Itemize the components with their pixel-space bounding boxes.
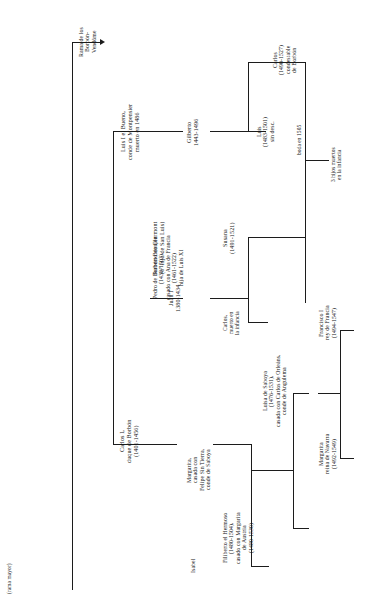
connector-margarita-luisa (293, 393, 309, 394)
genealogy-chart-page: (rama mayor) Rama de los Borbón- Vendôme (0, 0, 369, 609)
connector-pedro-susana (248, 237, 268, 238)
node-pedro-beaujeu: Pedro de Borbón-Beaujeu (1438-1503), cas… (152, 206, 192, 330)
connector-carlosI-margarita (251, 470, 269, 471)
connector-union-3hijos (305, 160, 329, 161)
bracket-pedro-children (248, 237, 249, 322)
connector-luisI-gilberto (146, 131, 183, 132)
trunk-vertical-main (72, 42, 73, 590)
node-filiberto-hermoso: Filiberto el Hermoso (1480-1504), casado… (222, 482, 262, 594)
node-tres-hijos-muertos: 3 hijos muertos en la infancia (330, 128, 347, 202)
node-boda-1505: boda en 1505 (296, 112, 306, 168)
node-luisa-saboya: Luisa de Saboya (1476-1531), casada con … (262, 318, 294, 464)
union-susana-to-boda (305, 237, 306, 238)
bracket-gilberto-children (248, 62, 249, 131)
node-susana: Susana (1491-1521) (222, 204, 239, 272)
node-isabel: Isabel (190, 548, 200, 584)
node-gilberto: Gilberto 1443-1496 (186, 98, 203, 166)
node-luis-1483: Luis (1483-1501) sin desc. (256, 98, 280, 166)
connector-gilberto-bracket (210, 131, 248, 132)
vendome-arrow-icon (100, 39, 105, 45)
connector-luisa-francisco (340, 330, 354, 331)
node-luis-i-montpensier: Luis I el Bueno, conde de Montpensier mu… (120, 80, 145, 184)
node-margarita-saboya: Margarita, casada con Felipe Sin Tierra,… (186, 418, 218, 522)
connector-luisa-margaritanav (340, 458, 354, 459)
node-margarita-navarra: Margarita reina de Navarra (1492-1549) (318, 412, 342, 496)
union-line-boda-1505 (305, 62, 306, 303)
node-carlos-muerto-infancia: Carlos, muerto en la infancia (222, 292, 245, 354)
node-carlos-i-duque: Carlos I, duque de Borbón (1401-1456) (119, 396, 144, 486)
node-rama-vendome: Rama de los Borbón- Vendôme (78, 8, 100, 76)
node-carlos-condestable: Carlos (1490-1527) condestable de Borbón (272, 18, 304, 102)
connector-susana-union (268, 237, 305, 238)
node-francisco-i: Francisco I rey de Francia (1494-1547) (318, 284, 342, 362)
connector-carlosI-children (213, 444, 251, 445)
connector-margarita-filiberto (293, 528, 309, 529)
bracket-juan-children (113, 131, 114, 444)
connector-margarita-bracket (269, 470, 293, 471)
connector-luisa-children (318, 393, 340, 394)
connector-gilberto-carlos (248, 62, 270, 63)
header-note: (rama mayor) (6, 556, 16, 602)
